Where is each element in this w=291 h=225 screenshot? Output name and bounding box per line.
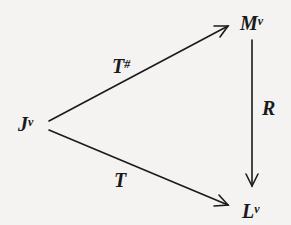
label-t-sharp-sup: # bbox=[124, 57, 130, 71]
arrow-t-sharp bbox=[49, 26, 228, 121]
node-l: Lν bbox=[242, 201, 260, 221]
node-j-sup: ν bbox=[28, 115, 33, 129]
label-t-base: T bbox=[114, 169, 126, 191]
arrow-t bbox=[49, 130, 228, 206]
label-r-base: R bbox=[262, 97, 275, 119]
commutative-diagram: Jν Mν Lν T# R T bbox=[0, 0, 291, 225]
node-l-sup: ν bbox=[254, 202, 259, 216]
label-t: T bbox=[114, 170, 126, 190]
node-j: Jν bbox=[18, 114, 33, 134]
node-m: Mν bbox=[240, 13, 263, 33]
node-m-sup: ν bbox=[258, 14, 263, 28]
label-r: R bbox=[262, 98, 275, 118]
label-t-sharp: T# bbox=[112, 56, 130, 76]
node-m-base: M bbox=[240, 12, 258, 34]
label-t-sharp-base: T bbox=[112, 55, 124, 77]
arrow-r bbox=[246, 40, 258, 186]
node-j-base: J bbox=[18, 113, 28, 135]
node-l-base: L bbox=[242, 200, 254, 222]
